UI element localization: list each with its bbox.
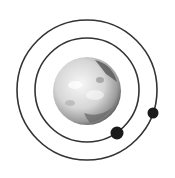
- outer-moon: [148, 108, 159, 119]
- diagram-canvas: [0, 0, 175, 178]
- inner-moon: [111, 127, 124, 140]
- planet: [53, 57, 121, 125]
- orbital-diagram: [0, 0, 175, 178]
